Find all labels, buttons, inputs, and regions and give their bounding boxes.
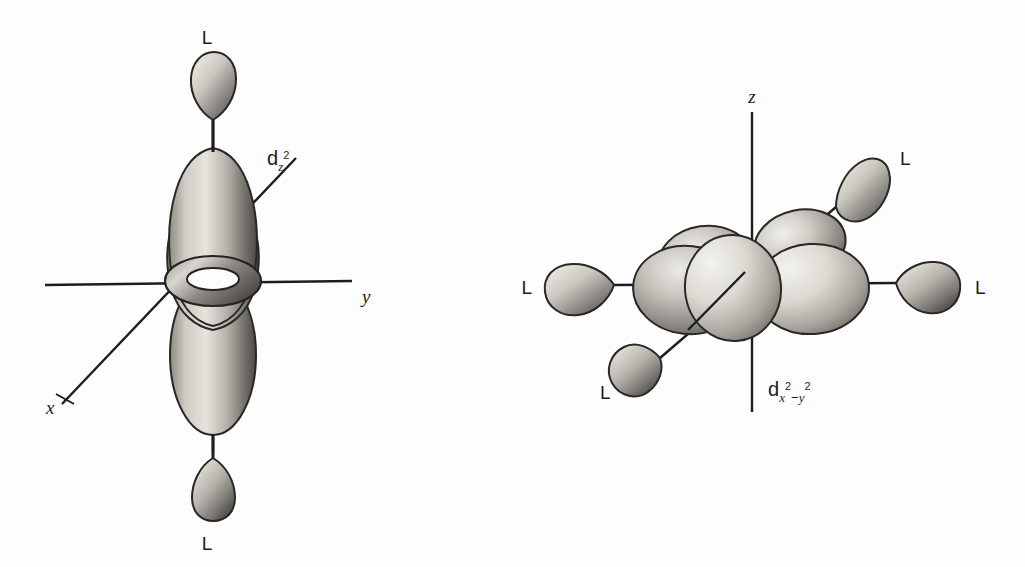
ligand-label-right-panel-upper-right: L [900,148,911,169]
ligand-label-right-panel-right: L [975,277,986,298]
orbital-label-dz2-base: d [267,147,278,169]
axis-label-z: z [747,86,756,107]
orbital-torus-hole [187,268,239,290]
ligand-label-bottom: L [202,533,213,554]
axis-label-x: x [45,397,55,418]
ligand-label-right-panel-left: L [521,277,532,298]
orbital-label-dz2-sup: 2 [283,149,289,161]
orbital-label-dx2y2-sup-b: 2 [804,380,810,392]
orbital-label-dz2-sub: z [277,159,283,174]
diagram-canvas: L L y x dz2 L [0,0,1025,567]
orbital-label-dx2y2-base: d [768,378,779,400]
orbital-label-dx2y2-minus: − [791,390,799,405]
orbital-label-dx2y2-sub-a: x [778,390,785,405]
ligand-label-top: L [202,27,213,48]
ligand-label-right-panel-lower-left: L [600,382,611,403]
axis-label-y: y [360,286,371,307]
orbital-label-dx2y2-sub-b: y [797,390,805,405]
orbital-diagram-figure: L L y x dz2 L [0,0,1025,567]
